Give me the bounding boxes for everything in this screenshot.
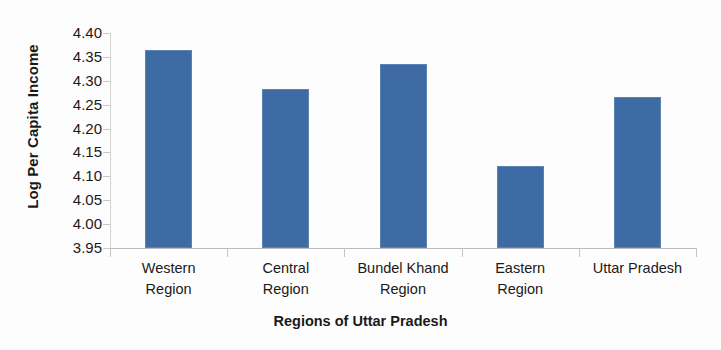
y-axis-tick-mark <box>103 200 110 201</box>
y-axis-tick-label: 4.30 <box>50 73 102 88</box>
x-axis-category-separator <box>462 248 463 257</box>
x-axis-tick-label-line2: Region <box>110 279 227 300</box>
bar-chart-figure: Log Per Capita Income 4.404.354.304.254.… <box>0 0 721 350</box>
y-axis-title: Log Per Capita Income <box>24 7 41 247</box>
bar <box>145 50 192 248</box>
x-axis-end-tick <box>696 248 697 257</box>
y-axis-tick-label: 3.95 <box>50 240 102 255</box>
x-axis-tick-label: WesternRegion <box>110 258 227 300</box>
x-axis-tick-label: Bundel KhandRegion <box>344 258 461 300</box>
x-axis-category-separator <box>579 248 580 257</box>
x-axis-tick-label: EasternRegion <box>462 258 579 300</box>
x-axis-title: Regions of Uttar Pradesh <box>0 313 721 329</box>
x-axis-line <box>110 248 696 249</box>
x-axis-tick-label-line1: Western <box>142 260 196 276</box>
y-axis-tick-mark <box>103 81 110 82</box>
y-axis-tick-label: 4.05 <box>50 192 102 207</box>
y-axis-tick-mark <box>103 152 110 153</box>
x-axis-category-separator <box>344 248 345 257</box>
y-axis-tick-mark <box>103 224 110 225</box>
y-axis-tick-mark <box>103 57 110 58</box>
y-axis-tick-label: 4.10 <box>50 168 102 183</box>
bar <box>497 166 544 248</box>
y-axis-tick-label: 4.40 <box>50 25 102 40</box>
y-axis-tick-mark <box>103 105 110 106</box>
x-axis-tick-label-line2: Region <box>227 279 344 300</box>
y-axis-tick-mark <box>103 248 110 249</box>
bar <box>380 64 427 248</box>
bar <box>262 89 309 248</box>
x-axis-tick-label-line2: Region <box>462 279 579 300</box>
y-axis-tick-mark <box>103 176 110 177</box>
y-axis-tick-mark <box>103 129 110 130</box>
y-axis-tick-label: 4.35 <box>50 49 102 64</box>
y-axis-tick-label: 4.00 <box>50 216 102 231</box>
x-axis-tick-label-group: WesternRegionCentralRegionBundel KhandRe… <box>110 258 696 304</box>
y-axis-tick-label: 4.25 <box>50 97 102 112</box>
plot-area <box>110 20 696 248</box>
x-axis-category-separator <box>227 248 228 257</box>
x-axis-tick-label-line1: Central <box>262 260 309 276</box>
y-axis-tick-label: 4.15 <box>50 144 102 159</box>
x-axis-tick-label-line2: Region <box>344 279 461 300</box>
x-axis-tick-label-line1: Uttar Pradesh <box>593 260 682 276</box>
y-axis-tick-label: 4.20 <box>50 121 102 136</box>
bar <box>614 97 661 248</box>
x-axis-start-tick <box>110 248 111 257</box>
y-axis-tick-mark <box>103 33 110 34</box>
y-axis-tick-label-group: 4.404.354.304.254.204.154.104.054.003.95 <box>50 0 102 350</box>
x-axis-tick-label-line1: Eastern <box>495 260 545 276</box>
x-axis-tick-label: CentralRegion <box>227 258 344 300</box>
x-axis-tick-label-line1: Bundel Khand <box>357 260 448 276</box>
x-axis-tick-label: Uttar Pradesh <box>579 258 696 279</box>
